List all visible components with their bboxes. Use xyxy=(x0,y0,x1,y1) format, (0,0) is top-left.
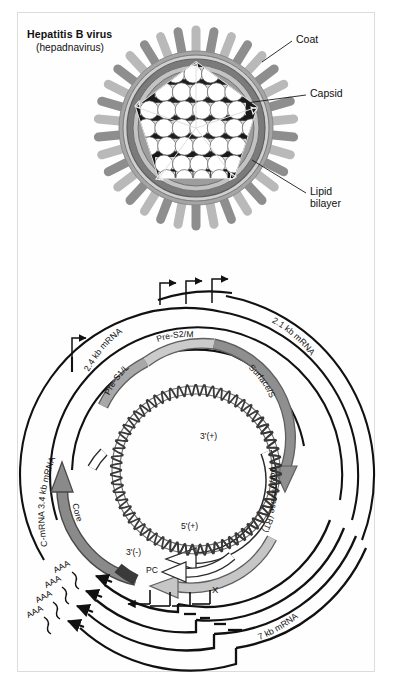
label-3-4kb-mrna: C-mRNA 3.4 kb mRNA xyxy=(36,455,57,548)
transcript-arrowheads xyxy=(68,576,112,627)
label-x: X xyxy=(212,585,218,596)
top-promoter-arrows xyxy=(158,279,232,305)
dna-plus-strand xyxy=(167,418,281,554)
orf-x-arrowhead xyxy=(150,576,178,598)
genome-panel: 2.4 kb mRNA 2.1 kb mRNA C-mRNA 3.4 kb mR… xyxy=(0,0,393,699)
label-pre-core: PC xyxy=(146,566,158,576)
dna-wave-path xyxy=(167,418,281,554)
orf-pre-s2-m-fill xyxy=(146,343,214,362)
label-2-4kb-mrna: 2.4 kb mRNA xyxy=(82,326,124,373)
genome-svg: 2.4 kb mRNA 2.1 kb mRNA C-mRNA 3.4 kb mR… xyxy=(0,0,393,699)
label-3prime-minus: 3'(-) xyxy=(126,548,141,558)
transcript-tails xyxy=(80,520,366,671)
bottom-transcripts xyxy=(184,614,242,630)
arc-2-1kb xyxy=(50,327,226,520)
label-5prime-plus: 5'(+) xyxy=(181,522,198,532)
figure-root: Hepatitis B virus (hepadnavirus) xyxy=(0,0,393,699)
label-3prime-plus: 3'(+) xyxy=(200,432,217,442)
